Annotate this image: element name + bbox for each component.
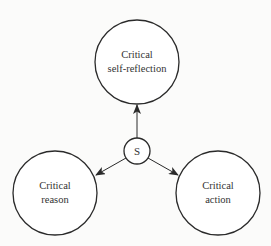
node-label-line1: Critical [121, 49, 153, 60]
node-label-line1: Critical [39, 180, 71, 191]
edge-s-to-reason [96, 158, 126, 175]
node-label-line2: self-reflection [108, 63, 168, 74]
node-critical-self-reflection: Critical self-reflection [95, 20, 179, 104]
node-label-line2: action [205, 194, 231, 205]
node-s-label: S [134, 145, 140, 157]
diagram-canvas: Critical self-reflection S Critical reas… [0, 0, 271, 246]
node-label-line1: Critical [202, 180, 234, 191]
node-label-line2: reason [41, 194, 69, 205]
node-critical-action: Critical action [176, 151, 260, 235]
node-critical-reason: Critical reason [13, 151, 97, 235]
edge-s-to-action [148, 158, 178, 175]
node-s: S [124, 138, 150, 164]
